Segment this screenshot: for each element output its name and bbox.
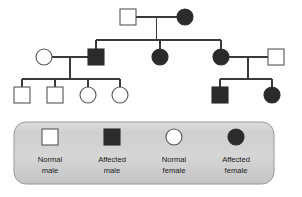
legend-symbol-normal-female xyxy=(166,129,182,145)
pedigree-canvas: NormalmaleAffectedmaleNormalfemaleAffect… xyxy=(0,0,302,197)
individual-normal-female xyxy=(36,49,52,65)
individual-affected-female xyxy=(264,87,280,103)
individual-symbols xyxy=(14,9,284,103)
individual-normal-male xyxy=(120,9,136,25)
legend-symbol-normal-male xyxy=(42,129,58,145)
individual-normal-female xyxy=(80,87,96,103)
individual-affected-female xyxy=(177,9,193,25)
individual-affected-male xyxy=(88,49,104,65)
legend-affected-male-label-line1: Affected xyxy=(98,155,126,164)
individual-normal-male xyxy=(268,49,284,65)
pedigree-chart: NormalmaleAffectedmaleNormalfemaleAffect… xyxy=(0,0,302,197)
legend-affected-male-label-line2: male xyxy=(104,166,120,175)
relationship-lines xyxy=(22,17,272,87)
legend-normal-male-label-line2: male xyxy=(42,166,58,175)
individual-normal-female xyxy=(112,87,128,103)
individual-affected-female xyxy=(213,49,229,65)
legend-normal-female-label-line2: female xyxy=(163,166,186,175)
legend-symbol-affected-female xyxy=(228,129,244,145)
legend-normal-male-label-line1: Normal xyxy=(38,155,63,164)
individual-affected-male xyxy=(212,87,228,103)
legend-affected-female-label-line1: Affected xyxy=(222,155,250,164)
legend-normal-female-label-line1: Normal xyxy=(162,155,187,164)
individual-normal-male xyxy=(14,87,30,103)
legend: NormalmaleAffectedmaleNormalfemaleAffect… xyxy=(14,122,274,184)
legend-symbol-affected-male xyxy=(104,129,120,145)
legend-affected-female-label-line2: female xyxy=(225,166,248,175)
individual-normal-male xyxy=(47,87,63,103)
individual-affected-female xyxy=(152,49,168,65)
